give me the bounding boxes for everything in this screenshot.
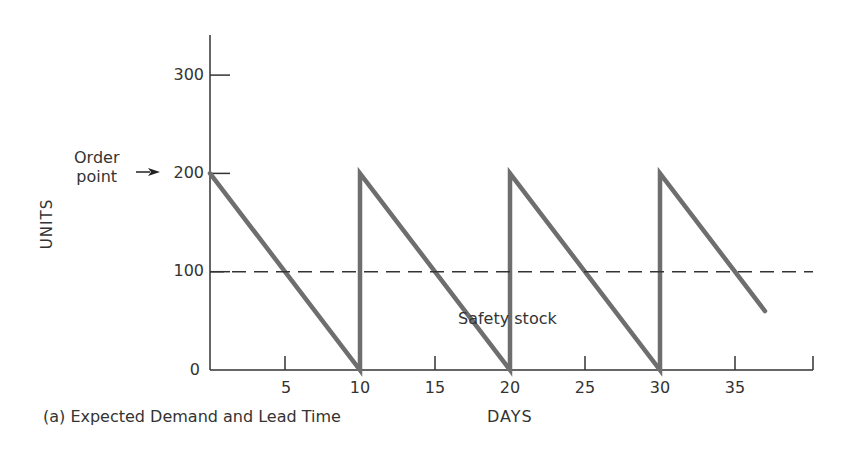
order-point-line2: point — [74, 167, 119, 186]
x-tick-label-5: 5 — [266, 378, 306, 397]
y-tick-label-100: 100 — [144, 261, 204, 280]
y-tick-label-0: 0 — [140, 360, 200, 379]
safety-stock-label: Safety stock — [458, 309, 557, 328]
y-tick-label-200: 200 — [144, 163, 204, 182]
x-tick-label-35: 35 — [715, 378, 755, 397]
order-point-line1: Order — [74, 148, 119, 167]
y-axis-label: UNITS — [38, 199, 56, 249]
series-lines — [210, 173, 813, 370]
x-tick-label-15: 15 — [415, 378, 455, 397]
x-tick-label-25: 25 — [565, 378, 605, 397]
x-axis-label: DAYS — [487, 407, 533, 426]
y-tick-label-300: 300 — [144, 65, 204, 84]
x-tick-label-20: 20 — [490, 378, 530, 397]
order-point-annotation: Order point — [74, 148, 119, 186]
x-tick-label-30: 30 — [640, 378, 680, 397]
figure-caption: (a) Expected Demand and Lead Time — [43, 407, 341, 426]
x-tick-label-10: 10 — [340, 378, 380, 397]
